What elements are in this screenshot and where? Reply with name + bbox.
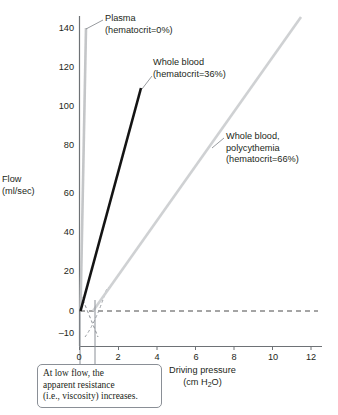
plasma-series-line xyxy=(81,28,87,311)
x-axis-title-units: (cm H2O) xyxy=(169,377,236,391)
plasma-annotation-line2: (hematocrit=0%) xyxy=(105,25,173,37)
polycythemia-annotation-line1: Whole blood, xyxy=(226,131,299,143)
callout-line1: At low flow, the xyxy=(43,368,157,380)
plasma-leader-line xyxy=(86,20,103,29)
callout-line2: apparent resistance xyxy=(43,380,157,392)
whole-blood-series-line xyxy=(81,88,142,311)
x-tick-0: 0 xyxy=(69,352,89,362)
whole-blood-annotation-line1: Whole blood xyxy=(153,57,226,69)
x-tick-10: 10 xyxy=(263,352,283,362)
y-tick-minus10: –10 xyxy=(40,328,74,338)
polycythemia-annotation-line2: polycythemia xyxy=(226,143,299,155)
polycythemia-annotation: Whole blood, polycythemia (hematocrit=66… xyxy=(226,131,299,166)
plasma-annotation-line1: Plasma xyxy=(105,13,173,25)
x-tick-8: 8 xyxy=(224,352,244,362)
y-axis-title-line2: (ml/sec) xyxy=(2,186,35,198)
x-tick-6: 6 xyxy=(186,352,206,362)
y-tick-100: 100 xyxy=(44,101,74,111)
x-axis-title: Driving pressure (cm H2O) xyxy=(169,365,236,391)
y-tick-60: 60 xyxy=(44,188,74,198)
y-axis-title-line1: Flow xyxy=(2,174,35,186)
y-tick-140: 140 xyxy=(44,23,74,33)
x-axis-title-line1: Driving pressure xyxy=(169,365,236,377)
plasma-annotation: Plasma (hematocrit=0%) xyxy=(105,13,173,36)
x-tick-4: 4 xyxy=(147,352,167,362)
x-units-post: O) xyxy=(212,377,222,387)
y-tick-120: 120 xyxy=(44,62,74,72)
y-axis-title: Flow (ml/sec) xyxy=(2,174,35,198)
y-tick-80: 80 xyxy=(44,140,74,150)
low-flow-callout-box: At low flow, the apparent resistance (i.… xyxy=(37,364,162,408)
y-tick-0: 0 xyxy=(44,306,74,316)
callout-line3: (i.e., viscosity) increases. xyxy=(43,391,157,403)
x-tick-12: 12 xyxy=(301,352,321,362)
x-tick-2: 2 xyxy=(108,352,128,362)
polycythemia-extrapolation-dashed xyxy=(85,287,112,337)
polycythemia-annotation-line3: (hematocrit=66%) xyxy=(226,154,299,166)
flow-vs-driving-pressure-chart: 140 120 100 80 60 40 20 0 –10 0 2 4 6 8 … xyxy=(0,0,338,415)
whole-blood-annotation: Whole blood (hematocrit=36%) xyxy=(153,57,226,80)
x-units-pre: (cm H xyxy=(183,377,208,387)
whole-blood-annotation-line2: (hematocrit=36%) xyxy=(153,69,226,81)
y-tick-20: 20 xyxy=(44,266,74,276)
y-tick-40: 40 xyxy=(44,227,74,237)
whole-blood-leader-line xyxy=(142,76,152,89)
